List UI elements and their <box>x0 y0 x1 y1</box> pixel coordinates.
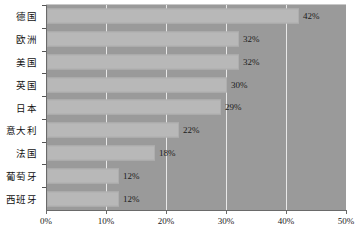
category-label-意大利: 意大利 <box>6 123 38 137</box>
bar-row: 12% <box>47 164 346 187</box>
category-tick <box>42 187 46 188</box>
bar-chart: 42%32%32%30%29%22%18%12%12% 德国欧洲美国英国日本意大… <box>0 0 362 240</box>
bar-row: 22% <box>47 119 346 142</box>
category-label-英国: 英国 <box>16 78 37 92</box>
category-label-西班牙: 西班牙 <box>6 192 38 206</box>
bar-row: 32% <box>47 51 346 74</box>
bar-西班牙 <box>47 191 119 206</box>
x-tick-label-0%: 0% <box>40 216 52 226</box>
x-tick-40% <box>286 210 287 214</box>
bar-value-label: 42% <box>303 11 320 21</box>
x-tick-50% <box>346 210 347 214</box>
bar-英国 <box>47 77 227 92</box>
bar-value-label: 32% <box>243 57 260 67</box>
plot-area: 42%32%32%30%29%22%18%12%12% <box>46 5 346 210</box>
category-axis: 德国欧洲美国英国日本意大利法国葡萄牙西班牙 <box>0 5 46 210</box>
category-tick <box>42 119 46 120</box>
x-tick-20% <box>166 210 167 214</box>
category-tick <box>42 5 46 6</box>
bar-欧洲 <box>47 32 239 47</box>
category-tick <box>42 142 46 143</box>
bar-value-label: 18% <box>159 148 176 158</box>
category-tick <box>42 96 46 97</box>
category-label-欧洲: 欧洲 <box>16 32 37 46</box>
category-tick <box>42 51 46 52</box>
bar-value-label: 12% <box>123 171 140 181</box>
bar-日本 <box>47 100 221 115</box>
bar-value-label: 32% <box>243 34 260 44</box>
x-tick-label-10%: 10% <box>98 216 115 226</box>
bar-德国 <box>47 9 299 24</box>
bar-法国 <box>47 146 155 161</box>
bar-value-label: 22% <box>183 125 200 135</box>
category-tick <box>42 73 46 74</box>
x-tick-0% <box>46 210 47 214</box>
category-tick <box>42 28 46 29</box>
x-tick-label-20%: 20% <box>158 216 175 226</box>
x-axis-line <box>46 210 347 211</box>
bar-row: 12% <box>47 187 346 210</box>
category-label-美国: 美国 <box>16 55 37 69</box>
category-tick <box>42 164 46 165</box>
x-tick-10% <box>106 210 107 214</box>
x-tick-30% <box>226 210 227 214</box>
bar-value-label: 30% <box>231 80 248 90</box>
bar-value-label: 12% <box>123 194 140 204</box>
category-label-葡萄牙: 葡萄牙 <box>6 169 38 183</box>
bar-row: 30% <box>47 73 346 96</box>
bar-series: 42%32%32%30%29%22%18%12%12% <box>47 5 346 210</box>
bar-意大利 <box>47 123 179 138</box>
category-label-法国: 法国 <box>16 146 37 160</box>
bar-row: 29% <box>47 96 346 119</box>
x-tick-label-30%: 30% <box>218 216 235 226</box>
x-tick-label-50%: 50% <box>338 216 355 226</box>
x-tick-label-40%: 40% <box>278 216 295 226</box>
bar-row: 18% <box>47 142 346 165</box>
bar-美国 <box>47 54 239 69</box>
category-label-日本: 日本 <box>16 101 37 115</box>
bar-row: 42% <box>47 5 346 28</box>
bar-row: 32% <box>47 28 346 51</box>
category-label-德国: 德国 <box>16 9 37 23</box>
bar-葡萄牙 <box>47 168 119 183</box>
bar-value-label: 29% <box>225 102 242 112</box>
